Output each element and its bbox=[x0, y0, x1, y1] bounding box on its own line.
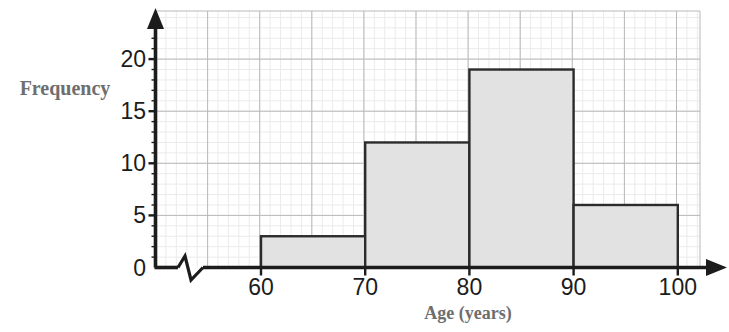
y-tick-labels: 05101520 bbox=[120, 46, 146, 280]
x-tick-label: 90 bbox=[561, 274, 587, 300]
y-tick-label: 10 bbox=[120, 150, 146, 176]
histogram-bar bbox=[574, 205, 678, 268]
plot-bars bbox=[261, 70, 678, 268]
x-tick-label: 80 bbox=[457, 274, 483, 300]
histogram-bar bbox=[365, 142, 469, 267]
histogram-chart: 05101520 60708090100 Frequency Age (year… bbox=[0, 0, 729, 332]
x-axis-title: Age (years) bbox=[424, 303, 511, 324]
y-tick-label: 20 bbox=[120, 46, 146, 72]
y-tick-label: 0 bbox=[133, 255, 146, 281]
y-tick-label: 15 bbox=[120, 98, 146, 124]
y-axis-title: Frequency bbox=[20, 77, 111, 100]
y-axis bbox=[147, 8, 164, 268]
x-tick-label: 100 bbox=[659, 274, 697, 300]
x-tick-label: 60 bbox=[248, 274, 274, 300]
axis-break-zigzag-icon bbox=[178, 256, 203, 280]
histogram-bar bbox=[261, 236, 365, 267]
y-tick-label: 5 bbox=[133, 202, 146, 228]
x-tick-label: 70 bbox=[352, 274, 378, 300]
histogram-bar bbox=[469, 70, 573, 268]
x-tick-labels: 60708090100 bbox=[248, 274, 697, 300]
histogram-canvas: 05101520 60708090100 Frequency Age (year… bbox=[0, 0, 729, 332]
